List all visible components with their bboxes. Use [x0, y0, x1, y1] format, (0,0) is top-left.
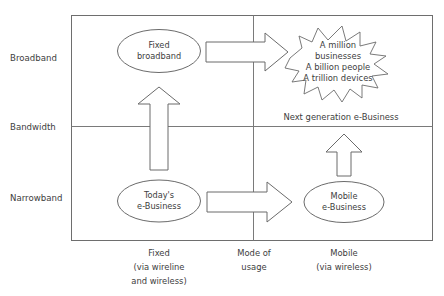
burst-caption: Next generation e-Business [283, 112, 398, 122]
diagram-canvas: Broadband Bandwidth Narrowband Fixed bro… [0, 0, 444, 296]
mobile-ebusiness-label-line1: Mobile [331, 191, 358, 201]
right-block-arrow-top [206, 33, 288, 71]
todays-ebusiness-label-line2: e-Business [137, 201, 181, 211]
y-axis-name: Bandwidth [10, 122, 56, 132]
y-band-label-narrowband: Narrowband [10, 193, 62, 203]
x-band-label-fixed-line1: Fixed [148, 248, 170, 258]
x-band-label-mobile-line1: Mobile [330, 248, 357, 258]
x-band-label-fixed-line3: and wireless) [131, 276, 186, 286]
node-mobile-ebusiness[interactable]: Mobile e-Business [304, 182, 384, 223]
bandwidth-mode-of-usage-diagram: Broadband Bandwidth Narrowband Fixed bro… [0, 0, 444, 296]
arrow-todays-to-mobile [207, 182, 292, 222]
fixed-broadband-label-line2: broadband [137, 51, 181, 61]
burst-label-line2: businesses [315, 51, 361, 61]
mobile-ebusiness-label-line2: e-Business [322, 202, 366, 212]
todays-ebusiness-label-line1: Today's [143, 190, 174, 200]
node-todays-ebusiness[interactable]: Today's e-Business [118, 180, 201, 222]
node-next-generation-ebusiness[interactable]: A million businesses A billion people A … [283, 26, 398, 122]
y-band-label-broadband: Broadband [10, 53, 57, 63]
x-band-label-fixed-line2: (via wireline [133, 262, 184, 272]
up-block-arrow-right [326, 134, 362, 176]
node-fixed-broadband[interactable]: Fixed broadband [118, 30, 201, 73]
burst-label-line3: A billion people [306, 62, 371, 72]
fixed-broadband-label-line1: Fixed [148, 40, 169, 50]
x-band-label-mobile-line2: (via wireless) [316, 262, 371, 272]
arrow-todays-to-fixed-broadband [138, 87, 180, 170]
x-axis-name-line2: usage [241, 262, 266, 272]
burst-label-line1: A million [320, 40, 356, 50]
right-block-arrow-bottom [207, 182, 292, 222]
burst-label-line4: A trillion devices [303, 73, 372, 83]
up-block-arrow-left [138, 87, 180, 170]
arrow-mobile-to-burst [326, 134, 362, 176]
x-axis-name-line1: Mode of [237, 248, 272, 258]
arrow-fixed-broadband-to-burst [206, 33, 288, 71]
